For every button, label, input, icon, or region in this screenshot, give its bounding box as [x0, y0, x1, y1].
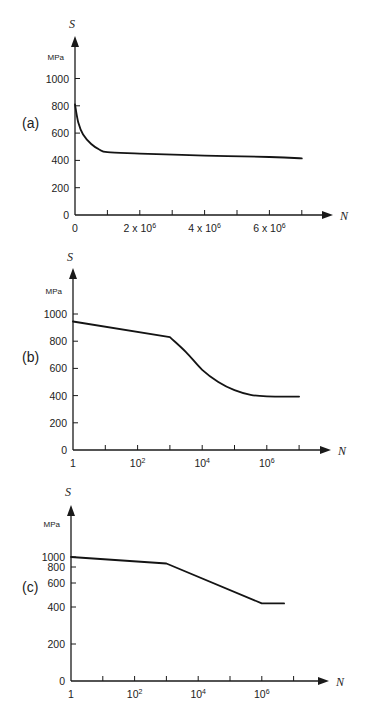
y-tick-label: 200: [49, 417, 67, 429]
sn-curve-line: [71, 557, 284, 603]
y-tick-label: 0: [63, 209, 69, 221]
y-tick-label: 200: [51, 182, 69, 194]
y-tick-label: 400: [47, 601, 65, 613]
y-axis-label: S: [65, 485, 71, 499]
chart-panel-b: SMPaN(b)020040060080010001102104106: [22, 250, 347, 469]
y-axis-unit: MPa: [46, 287, 63, 296]
chart-panel-c: SMPaN(c)020040060080010001102104106: [22, 485, 345, 700]
y-axis-arrow-icon: [69, 268, 77, 279]
x-axis-label: N: [335, 675, 345, 689]
y-tick-label: 0: [59, 675, 65, 687]
x-tick-label: 0: [72, 222, 78, 234]
x-tick-label: 2 x 106: [124, 222, 157, 234]
y-tick-label: 800: [51, 100, 69, 112]
x-axis-arrow-icon: [320, 446, 331, 454]
panel-label: (c): [22, 579, 38, 595]
x-tick-label: 1: [68, 688, 74, 700]
chart-panel-a: SMPaN(a)0200400600800100002 x 1064 x 106…: [22, 17, 349, 234]
x-tick-label: 104: [190, 688, 206, 700]
y-axis-label: S: [69, 17, 75, 31]
y-tick-label: 800: [49, 335, 67, 347]
x-axis-arrow-icon: [318, 677, 329, 685]
y-tick-label: 400: [51, 154, 69, 166]
x-tick-label: 102: [130, 457, 146, 469]
y-tick-label: 600: [51, 127, 69, 139]
y-tick-label: 600: [49, 362, 67, 374]
x-tick-label: 4 x 106: [188, 222, 221, 234]
x-tick-label: 102: [127, 688, 143, 700]
sn-curves-figure: SMPaN(a)0200400600800100002 x 1064 x 106…: [0, 0, 366, 720]
sn-curve-line: [75, 104, 302, 158]
y-tick-label: 0: [61, 444, 67, 456]
y-axis-arrow-icon: [71, 36, 79, 47]
sn-curve-line: [73, 322, 299, 397]
x-tick-label: 106: [254, 688, 270, 700]
y-tick-label: 1000: [44, 308, 68, 320]
x-axis-arrow-icon: [322, 211, 333, 219]
y-axis-arrow-icon: [67, 505, 75, 516]
x-tick-label: 6 x 106: [253, 222, 286, 234]
y-tick-label: 600: [47, 577, 65, 589]
x-tick-label: 1: [70, 457, 76, 469]
x-tick-label: 104: [194, 457, 210, 469]
y-axis-unit: MPa: [44, 520, 61, 529]
panel-label: (b): [22, 349, 39, 365]
x-axis-label: N: [337, 444, 347, 458]
y-axis-label: S: [67, 250, 73, 264]
x-tick-label: 106: [259, 457, 275, 469]
y-tick-label: 400: [49, 390, 67, 402]
y-tick-label: 1000: [42, 551, 66, 563]
y-tick-label: 200: [47, 638, 65, 650]
y-axis-unit: MPa: [48, 53, 65, 62]
y-tick-label: 1000: [46, 73, 70, 85]
x-axis-label: N: [339, 209, 349, 223]
panel-label: (a): [22, 115, 39, 131]
